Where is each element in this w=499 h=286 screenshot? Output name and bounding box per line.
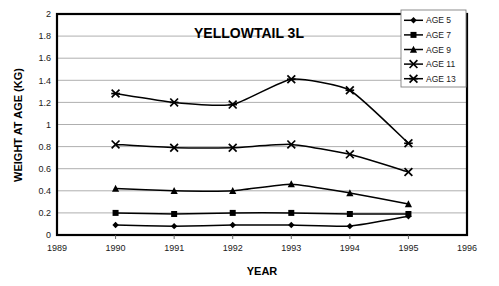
x-axis-title: YEAR xyxy=(247,265,278,277)
series-line xyxy=(116,79,409,143)
series-age-9 xyxy=(112,180,412,207)
legend-label: AGE 9 xyxy=(426,45,451,55)
data-series-group xyxy=(111,75,412,229)
series-age-11 xyxy=(112,140,413,175)
data-point-asterisk xyxy=(287,75,296,83)
y-tick-label: 2 xyxy=(46,9,51,19)
legend-label: AGE 11 xyxy=(426,59,455,69)
x-tick-label: 1991 xyxy=(164,243,184,253)
y-tick-label: 0.4 xyxy=(38,186,51,196)
x-tick-label: 1994 xyxy=(340,243,360,253)
data-point-square xyxy=(411,32,417,38)
data-point-square xyxy=(405,211,411,217)
series-age-7 xyxy=(113,210,412,217)
data-point-diamond xyxy=(112,222,118,228)
chart-title: YELLOWTAIL 3L xyxy=(194,25,304,41)
y-tick-label: 1.4 xyxy=(38,76,51,86)
y-tick-label: 1.6 xyxy=(38,53,51,63)
legend-label: AGE 7 xyxy=(426,30,451,40)
data-point-asterisk xyxy=(404,139,413,147)
data-point-asterisk xyxy=(346,86,355,94)
series-line xyxy=(116,216,409,226)
y-tick-label: 0.6 xyxy=(38,164,51,174)
data-point-diamond xyxy=(171,223,177,229)
data-point-asterisk xyxy=(111,90,120,98)
y-tick-label: 1.2 xyxy=(38,98,51,108)
data-point-diamond xyxy=(288,222,294,228)
x-tick-label: 1996 xyxy=(457,243,477,253)
x-axis-tick-labels: 19891990199119921993199419951996 xyxy=(47,235,477,253)
data-point-square xyxy=(171,211,177,217)
legend[interactable]: AGE 5AGE 7AGE 9AGE 11AGE 13 xyxy=(401,10,466,87)
x-tick-label: 1990 xyxy=(106,243,126,253)
legend-label: AGE 5 xyxy=(426,15,451,25)
data-point-square xyxy=(288,210,294,216)
y-tick-label: 0 xyxy=(46,230,51,240)
series-line xyxy=(116,144,409,172)
x-tick-label: 1989 xyxy=(47,243,67,253)
y-axis-tick-labels: 00.20.40.60.811.21.41.61.82 xyxy=(38,9,51,240)
data-point-cross xyxy=(405,168,413,176)
legend-label: AGE 13 xyxy=(426,74,456,84)
series-line xyxy=(116,184,409,204)
data-point-square xyxy=(230,210,236,216)
x-tick-label: 1995 xyxy=(398,243,418,253)
y-axis-title: WEIGHT AT AGE (KG) xyxy=(12,68,24,182)
y-tick-label: 0.2 xyxy=(38,208,51,218)
data-point-square xyxy=(347,211,353,217)
x-tick-label: 1992 xyxy=(223,243,243,253)
series-age-13 xyxy=(111,75,412,147)
y-tick-label: 1.8 xyxy=(38,31,51,41)
data-point-square xyxy=(113,210,119,216)
series-age-5 xyxy=(112,213,411,229)
data-point-diamond xyxy=(230,222,236,228)
line-chart: 00.20.40.60.811.21.41.61.82 198919901991… xyxy=(0,0,499,286)
chart-container: 00.20.40.60.811.21.41.61.82 198919901991… xyxy=(0,0,499,286)
data-point-asterisk xyxy=(170,99,179,107)
x-tick-label: 1993 xyxy=(281,243,301,253)
data-point-diamond xyxy=(347,223,353,229)
y-tick-label: 1 xyxy=(46,120,51,130)
data-point-asterisk xyxy=(228,101,237,109)
y-tick-label: 0.8 xyxy=(38,142,51,152)
